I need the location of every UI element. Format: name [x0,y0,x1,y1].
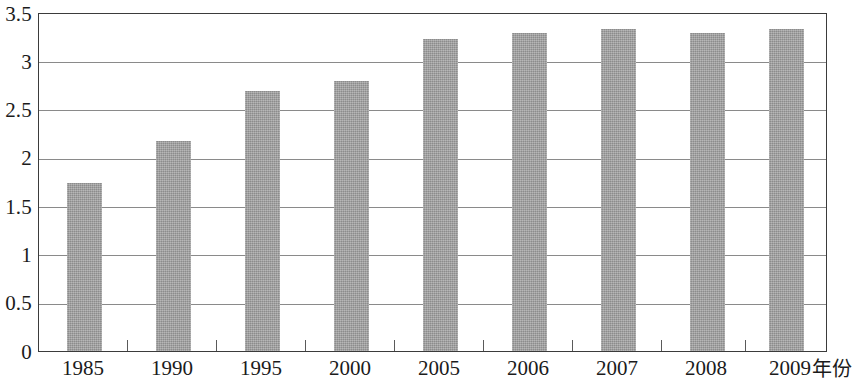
y-axis-tick-label: 2.5 [5,100,32,121]
x-axis-tick [661,340,662,351]
x-axis-tick [216,340,217,351]
bar-2008 [690,33,725,351]
x-axis-label-1990: 1990 [127,358,217,379]
plot-area [38,13,827,352]
x-axis-tick [483,340,484,351]
x-axis-label-2005: 2005 [394,358,484,379]
bar-2005 [423,39,458,351]
x-axis-label-1995: 1995 [216,358,306,379]
x-axis-tick [572,340,573,351]
bar-2007 [601,29,636,351]
x-axis-tick [394,340,395,351]
x-axis-label-1985: 1985 [38,358,128,379]
y-axis-tick-label: 1.5 [5,197,32,218]
bar-chart: 3.5 3 2.5 2 1.5 1 0.5 0 1985 1990 1995 2… [0,0,868,389]
bar-1985 [67,183,102,352]
y-axis-tick-label: 3 [21,52,32,73]
y-axis-tick-label: 1 [21,245,32,266]
bar-2009 [769,29,804,351]
bar-2000 [334,81,369,351]
bar-1995 [245,91,280,351]
x-axis-tick [127,340,128,351]
x-axis-label-2006: 2006 [483,358,573,379]
x-axis-label-2000: 2000 [305,358,395,379]
bar-2006 [512,33,547,351]
x-axis-label-2007: 2007 [572,358,662,379]
x-axis-label-2008: 2008 [661,358,751,379]
x-axis-tick [305,340,306,351]
bar-1990 [156,141,191,351]
y-axis-tick-label: 0 [21,342,32,363]
y-axis-tick-label: 0.5 [5,293,32,314]
y-axis-tick-label: 3.5 [5,4,32,25]
x-axis-tick [745,340,746,351]
x-axis-title: 年份 [812,359,852,379]
y-axis-tick-label: 2 [21,148,32,169]
